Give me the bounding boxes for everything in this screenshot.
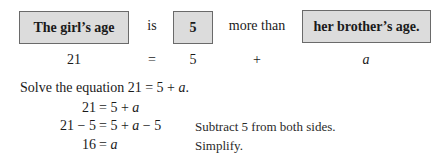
step-2-left: 21 − 5: [60, 118, 96, 134]
instruction-variable: a: [179, 80, 186, 95]
step-2-right: = 5 + a − 5: [99, 118, 161, 134]
connector-more-than: more than: [229, 18, 285, 34]
connector-is: is: [147, 18, 156, 34]
step-3-right: = a: [99, 137, 117, 153]
step-1-left: 21: [82, 100, 96, 116]
step-3-left: 16: [82, 137, 96, 153]
symbol-21: 21: [67, 52, 81, 68]
instruction-text: Solve the equation 21 = 5 +: [20, 80, 179, 95]
step-1-right: = 5 + a: [99, 100, 139, 116]
symbol-a: a: [363, 52, 370, 68]
phrase-box-girls-age-label: The girl’s age: [33, 20, 114, 36]
phrase-box-brothers-age: her brother’s age.: [302, 10, 431, 43]
phrase-box-five: 5: [173, 11, 213, 44]
instruction-suffix: .: [186, 80, 190, 95]
symbol-equals: =: [148, 52, 156, 68]
instruction-line: Solve the equation 21 = 5 + a.: [20, 80, 189, 96]
step-3-note: Simplify.: [195, 138, 243, 154]
symbol-5: 5: [190, 52, 197, 68]
phrase-box-brothers-age-label: her brother’s age.: [313, 19, 419, 35]
step-2-note: Subtract 5 from both sides.: [195, 119, 335, 135]
phrase-box-girls-age: The girl’s age: [19, 11, 129, 44]
phrase-box-five-label: 5: [190, 20, 197, 36]
symbol-plus: +: [253, 52, 261, 68]
